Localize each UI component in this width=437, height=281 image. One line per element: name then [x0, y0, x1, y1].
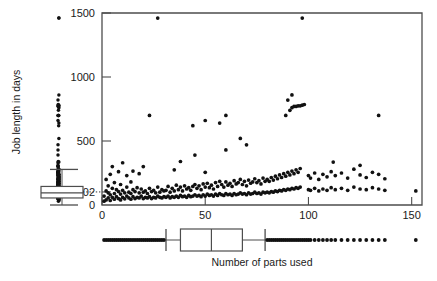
data-point [236, 181, 240, 185]
data-point [272, 178, 276, 182]
data-point [108, 172, 112, 176]
data-point [146, 192, 150, 196]
x-box-outlier-point [317, 238, 321, 242]
data-point [110, 187, 114, 191]
data-point [288, 173, 292, 177]
data-point [216, 185, 220, 189]
strip-point [56, 98, 60, 102]
data-point [168, 190, 172, 194]
data-point [179, 185, 183, 189]
strip-point [56, 143, 60, 147]
strip-point [57, 114, 61, 118]
data-point [331, 160, 335, 164]
data-point [113, 181, 117, 185]
data-point [203, 119, 207, 123]
x-box-outlier-point [340, 238, 344, 242]
data-point [284, 114, 288, 118]
data-point [325, 188, 329, 192]
x-box-outlier-point [346, 238, 350, 242]
data-point [106, 184, 110, 188]
data-point [325, 175, 329, 179]
x-box-outlier-point [162, 238, 166, 242]
x-box-outlier-point [358, 238, 362, 242]
data-point [110, 165, 114, 169]
data-point [218, 121, 222, 125]
strip-point [56, 148, 60, 152]
data-point [317, 178, 321, 182]
data-point [371, 186, 375, 190]
data-point [358, 173, 362, 177]
data-point [125, 174, 129, 178]
data-point [117, 170, 121, 174]
data-point [243, 179, 247, 183]
data-point [139, 187, 143, 191]
data-point [317, 189, 321, 193]
data-point [302, 103, 306, 107]
data-point [174, 183, 178, 187]
data-point [267, 179, 271, 183]
data-point [129, 180, 133, 184]
data-point [148, 114, 152, 118]
data-point [245, 184, 249, 188]
x-box-outlier-point [321, 238, 325, 242]
data-point [210, 183, 214, 187]
y-boxplot-box [41, 186, 83, 198]
data-point [377, 172, 381, 176]
data-point [224, 180, 228, 184]
data-point [313, 187, 317, 191]
data-point [292, 172, 296, 176]
x-box-outlier-point [329, 238, 333, 242]
strip-point [56, 153, 60, 157]
data-point [364, 176, 368, 180]
data-point [102, 194, 106, 198]
data-point [123, 191, 127, 195]
data-point [238, 178, 242, 182]
data-point [377, 187, 381, 191]
data-point [189, 188, 193, 192]
data-point [245, 143, 249, 147]
data-point [309, 188, 313, 192]
data-point [333, 174, 337, 178]
data-point [172, 168, 176, 172]
data-point [179, 160, 183, 164]
data-point [284, 174, 288, 178]
x-box-outlier-point [364, 238, 368, 242]
data-point [321, 172, 325, 176]
data-point [232, 179, 236, 183]
data-point [340, 171, 344, 175]
data-point [193, 183, 197, 187]
data-point [166, 185, 170, 189]
x-tick-label: 0 [99, 209, 105, 221]
data-point [183, 184, 187, 188]
data-point [230, 185, 234, 189]
data-point [154, 191, 158, 195]
data-point [377, 114, 381, 118]
x-box-outlier-point [414, 238, 418, 242]
x-tick-label: 50 [199, 209, 211, 221]
data-point [121, 161, 125, 165]
data-point [364, 188, 368, 192]
strip-point [56, 103, 60, 107]
data-point [214, 181, 218, 185]
data-point [193, 153, 197, 157]
strip-point [57, 173, 61, 177]
y-tick-label: 1500 [71, 7, 95, 19]
data-point [257, 179, 261, 183]
data-point [212, 187, 216, 191]
data-point [346, 176, 350, 180]
data-point [241, 183, 245, 187]
data-point [309, 176, 313, 180]
data-point [191, 124, 195, 128]
scatter-points [102, 16, 417, 203]
data-point [119, 183, 123, 187]
data-point [133, 190, 137, 194]
data-point [222, 185, 226, 189]
data-point [224, 148, 228, 152]
data-point [251, 180, 255, 184]
data-point [137, 191, 141, 195]
data-point [125, 185, 129, 189]
chart-canvas: 010250010001500050100150Job length in da… [0, 0, 437, 281]
strip-point [57, 160, 61, 164]
data-point [119, 192, 123, 196]
data-point [371, 171, 375, 175]
